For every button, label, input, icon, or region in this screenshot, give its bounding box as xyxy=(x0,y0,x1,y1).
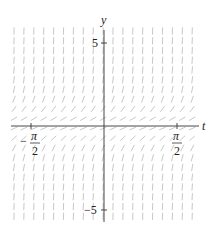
slope-segment xyxy=(162,86,164,93)
slope-segment xyxy=(111,145,114,151)
slope-segment xyxy=(52,145,55,151)
slope-segment xyxy=(132,86,134,93)
slope-segment xyxy=(33,174,34,181)
slope-segment xyxy=(180,106,184,112)
slope-segment xyxy=(72,154,74,161)
slope-segment xyxy=(53,174,54,181)
slope-segment xyxy=(80,127,87,130)
slope-segment xyxy=(53,164,54,171)
slope-segment xyxy=(43,183,44,190)
slope-segment xyxy=(192,76,193,83)
slope-segment xyxy=(71,136,76,141)
slope-field-diagram: y t 5 −5 − π 2 π 2 xyxy=(0,0,218,227)
slope-segment xyxy=(120,136,125,141)
slope-segment xyxy=(83,174,84,181)
slope-segment xyxy=(34,183,35,190)
slope-segment xyxy=(162,183,163,190)
slope-segment xyxy=(162,57,163,64)
slope-segment xyxy=(43,57,44,64)
slope-segment xyxy=(140,117,146,121)
slope-segment xyxy=(190,136,195,141)
slope-segment xyxy=(113,174,114,181)
slope-segment xyxy=(23,96,25,103)
slope-segment xyxy=(142,183,143,190)
slope-segment xyxy=(92,154,94,161)
slope-segment xyxy=(42,145,45,151)
t-tick-den-neg: 2 xyxy=(32,144,38,158)
slope-segment xyxy=(172,66,173,73)
slope-segment xyxy=(103,76,104,83)
slope-segment xyxy=(83,66,84,73)
slope-segment xyxy=(52,96,54,103)
slope-segment xyxy=(142,174,143,181)
slope-segment xyxy=(179,117,185,121)
slope-segment xyxy=(191,96,193,103)
slope-segment xyxy=(162,66,163,73)
slope-segment xyxy=(113,57,114,64)
slope-segment xyxy=(32,106,36,112)
slope-segment xyxy=(50,117,56,121)
slope-segment xyxy=(192,66,193,73)
slope-segment xyxy=(182,183,183,190)
slope-segment xyxy=(150,106,154,112)
slope-segment xyxy=(182,66,183,73)
slope-segment xyxy=(51,106,55,112)
slope-segment xyxy=(103,66,104,73)
slope-segment xyxy=(112,154,114,161)
slope-segment xyxy=(14,57,15,64)
slope-segment xyxy=(60,117,66,121)
slope-segment xyxy=(91,136,96,141)
slope-segment xyxy=(73,174,74,181)
slope-segment xyxy=(43,76,44,83)
slope-segment xyxy=(181,154,183,161)
slope-segment xyxy=(160,136,165,141)
slope-segment xyxy=(93,183,94,190)
slope-segment xyxy=(113,76,114,83)
slope-segment xyxy=(82,145,85,151)
slope-segment xyxy=(121,145,124,151)
slope-segment xyxy=(13,164,14,171)
slope-segment xyxy=(123,174,124,181)
slope-segment xyxy=(24,57,25,64)
slope-segment xyxy=(172,86,174,93)
slope-segment xyxy=(151,145,154,151)
slope-segment xyxy=(152,154,154,161)
slope-segment xyxy=(21,117,27,121)
slope-segment xyxy=(192,174,193,181)
slope-segment xyxy=(41,117,47,121)
slope-segment xyxy=(103,164,104,171)
slope-segment xyxy=(152,86,154,93)
slope-segment xyxy=(83,57,84,64)
slope-segment xyxy=(62,96,64,103)
slope-segment xyxy=(171,96,173,103)
slope-segment xyxy=(122,96,124,103)
slope-segment xyxy=(132,164,133,171)
slope-segment xyxy=(40,127,47,130)
slope-segment xyxy=(43,86,45,93)
slope-segment xyxy=(169,117,175,121)
slope-segment xyxy=(103,57,104,64)
slope-segment xyxy=(142,76,143,83)
slope-segment xyxy=(93,76,94,83)
t-tick-den-pos: 2 xyxy=(174,144,180,158)
slope-segment xyxy=(33,96,35,103)
slope-segment xyxy=(23,164,24,171)
slope-segment xyxy=(103,174,104,181)
slope-segment xyxy=(73,76,74,83)
slope-segment xyxy=(132,76,133,83)
slope-segment xyxy=(24,183,25,190)
slope-segment xyxy=(12,106,16,112)
slope-segment xyxy=(172,174,173,181)
slope-segment xyxy=(21,127,28,130)
slope-segment xyxy=(83,183,84,190)
slope-segment xyxy=(120,117,126,121)
slope-segment xyxy=(82,96,84,103)
slope-segment xyxy=(63,164,64,171)
slope-segment xyxy=(142,57,143,64)
slope-segment xyxy=(192,57,193,64)
slope-segment xyxy=(43,66,44,73)
slope-segment xyxy=(34,57,35,64)
slope-segment xyxy=(43,174,44,181)
slope-segment xyxy=(72,145,75,151)
slope-segment xyxy=(24,174,25,181)
